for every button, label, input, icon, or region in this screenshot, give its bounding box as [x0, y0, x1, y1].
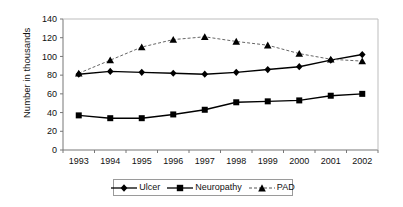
- square-marker-icon: [167, 183, 193, 193]
- data-point: [233, 69, 240, 76]
- svg-text:20: 20: [47, 126, 57, 136]
- svg-text:1994: 1994: [100, 156, 120, 166]
- series-markers: [75, 33, 366, 121]
- chart-plot-area: Number in thousands 020406080100120140 1…: [0, 0, 403, 207]
- legend-label-ulcer: Ulcer: [139, 183, 160, 192]
- data-point: [233, 99, 239, 105]
- svg-text:2000: 2000: [289, 156, 309, 166]
- data-point: [138, 69, 145, 76]
- series-line-pad: [79, 37, 363, 73]
- data-point: [107, 115, 113, 121]
- legend-item-neuropathy[interactable]: Neuropathy: [167, 183, 242, 193]
- data-point: [106, 57, 114, 64]
- data-point: [358, 58, 366, 65]
- data-point: [201, 33, 209, 40]
- svg-text:2002: 2002: [352, 156, 372, 166]
- axis-frame: [63, 19, 378, 150]
- legend-item-pad[interactable]: PAD: [249, 183, 295, 193]
- series-line-ulcer: [79, 55, 363, 75]
- svg-text:1996: 1996: [163, 156, 183, 166]
- data-point: [359, 91, 365, 97]
- data-point: [201, 71, 208, 78]
- data-point: [170, 111, 176, 117]
- svg-text:40: 40: [47, 108, 57, 118]
- triangle-marker-icon: [249, 183, 275, 193]
- chart-legend: Ulcer Neuropathy PAD: [113, 179, 293, 196]
- data-point: [359, 51, 366, 58]
- svg-text:140: 140: [42, 14, 57, 24]
- data-point: [76, 112, 82, 118]
- line-chart: Number in thousands 020406080100120140 1…: [0, 0, 403, 207]
- data-point: [264, 42, 272, 49]
- svg-text:1999: 1999: [258, 156, 278, 166]
- svg-text:0: 0: [52, 145, 57, 155]
- data-point: [107, 68, 114, 75]
- data-point: [169, 36, 177, 43]
- svg-text:80: 80: [47, 70, 57, 80]
- diamond-marker-icon: [111, 183, 137, 193]
- data-point: [264, 66, 271, 73]
- y-axis-tick-labels: 020406080100120140: [42, 14, 57, 155]
- data-point: [296, 97, 302, 103]
- legend-item-ulcer[interactable]: Ulcer: [111, 183, 160, 193]
- svg-text:1993: 1993: [69, 156, 89, 166]
- legend-label-neuropathy: Neuropathy: [195, 183, 242, 192]
- data-point: [265, 98, 271, 104]
- data-point: [170, 70, 177, 77]
- x-axis-tick-labels: 1993199419951996199719981999200020012002: [69, 156, 373, 166]
- series-line-neuropathy: [79, 94, 363, 118]
- data-point: [139, 115, 145, 121]
- legend-label-pad: PAD: [277, 183, 295, 192]
- svg-text:1998: 1998: [226, 156, 246, 166]
- svg-text:60: 60: [47, 89, 57, 99]
- svg-text:1997: 1997: [195, 156, 215, 166]
- svg-text:1995: 1995: [132, 156, 152, 166]
- svg-text:120: 120: [42, 33, 57, 43]
- data-point: [202, 107, 208, 113]
- y-axis-title: Number in thousands: [21, 27, 32, 118]
- data-point: [75, 70, 83, 77]
- svg-text:2001: 2001: [321, 156, 341, 166]
- data-point: [328, 93, 334, 99]
- series-lines: [79, 37, 363, 118]
- data-point: [296, 63, 303, 70]
- svg-text:100: 100: [42, 52, 57, 62]
